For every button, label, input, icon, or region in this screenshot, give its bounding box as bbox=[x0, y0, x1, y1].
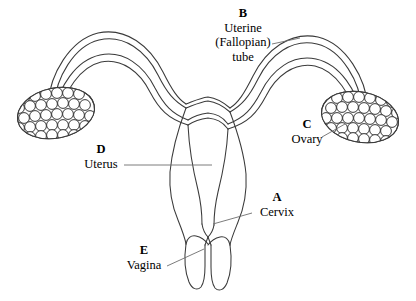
label-c-letter: C bbox=[283, 117, 331, 132]
label-a-cervix: A Cervix bbox=[253, 190, 301, 219]
label-e-text: Vagina bbox=[120, 258, 168, 273]
left-ovary bbox=[13, 80, 100, 145]
label-a-text: Cervix bbox=[253, 205, 301, 220]
anatomical-diagram: B Uterine (Fallopian) tube C Ovary D Ute… bbox=[0, 0, 416, 301]
label-b-line1: Uterine bbox=[205, 21, 281, 36]
label-d-text: Uterus bbox=[78, 157, 124, 172]
label-c-ovary: C Ovary bbox=[283, 117, 331, 146]
right-ovary-follicles bbox=[321, 92, 403, 147]
vagina bbox=[185, 244, 231, 290]
label-d-letter: D bbox=[78, 142, 124, 157]
label-b-letter: B bbox=[205, 6, 281, 21]
label-d-uterus: D Uterus bbox=[78, 142, 124, 171]
label-c-text: Ovary bbox=[283, 132, 331, 147]
label-e-vagina: E Vagina bbox=[120, 243, 168, 272]
label-b-line2: (Fallopian) bbox=[205, 35, 281, 50]
leader-line-a bbox=[213, 213, 252, 224]
label-b-line3: tube bbox=[205, 50, 281, 65]
label-a-letter: A bbox=[253, 190, 301, 205]
uterus-body bbox=[170, 97, 246, 245]
label-b-fallopian-tube: B Uterine (Fallopian) tube bbox=[205, 6, 281, 64]
label-e-letter: E bbox=[120, 243, 168, 258]
left-ovary-follicles bbox=[14, 88, 96, 143]
uterine-cavity bbox=[188, 113, 228, 225]
cervix bbox=[186, 224, 230, 245]
